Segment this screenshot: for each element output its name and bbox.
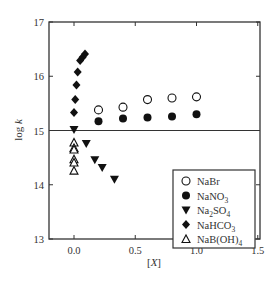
filled-diamond-marker bbox=[71, 95, 79, 104]
open-circle-marker bbox=[144, 96, 152, 104]
series-nano3 bbox=[95, 110, 201, 125]
series-nabr bbox=[95, 93, 201, 114]
filled-circle-marker bbox=[193, 110, 201, 118]
filled-diamond-marker bbox=[74, 67, 82, 76]
filled-triangle-down-marker bbox=[98, 164, 107, 172]
series-nab-oh-4 bbox=[70, 138, 78, 174]
y-tick-label: 15 bbox=[34, 126, 45, 137]
filled-circle-marker bbox=[144, 113, 152, 121]
filled-triangle-down-marker bbox=[90, 156, 99, 164]
y-tick-label: 14 bbox=[34, 180, 45, 191]
open-circle-marker bbox=[168, 94, 176, 102]
filled-circle-marker bbox=[182, 192, 190, 200]
x-axis-label: [X] bbox=[147, 256, 161, 268]
x-tick-label: 0.0 bbox=[67, 245, 80, 256]
open-circle-marker bbox=[95, 106, 103, 114]
x-tick-label: 0.5 bbox=[129, 245, 142, 256]
filled-circle-marker bbox=[95, 117, 103, 125]
y-tick-label: 16 bbox=[34, 71, 45, 82]
open-circle-marker bbox=[182, 177, 190, 185]
filled-diamond-marker bbox=[72, 80, 80, 89]
scatter-chart: 0.00.51.01.5 1314151617 [X] log k NaBrNa… bbox=[0, 0, 277, 282]
filled-diamond-marker bbox=[70, 108, 78, 117]
y-tick-label: 17 bbox=[34, 17, 45, 28]
y-axis-label: log k bbox=[12, 118, 24, 141]
filled-triangle-down-marker bbox=[110, 176, 119, 184]
filled-triangle-down-marker bbox=[82, 140, 91, 148]
filled-circle-marker bbox=[168, 112, 176, 120]
open-circle-marker bbox=[193, 93, 201, 101]
filled-circle-marker bbox=[119, 115, 127, 123]
open-triangle-up-marker bbox=[70, 167, 78, 175]
y-tick-label: 13 bbox=[34, 234, 45, 245]
legend-label: NaBr bbox=[197, 176, 220, 187]
data-points bbox=[70, 50, 201, 184]
series-nahco3 bbox=[70, 50, 89, 118]
series-na2so4 bbox=[70, 126, 119, 184]
legend: NaBrNaNO3Na2SO4NaHCO3NaB(OH)4 bbox=[173, 170, 255, 248]
open-circle-marker bbox=[119, 103, 127, 111]
